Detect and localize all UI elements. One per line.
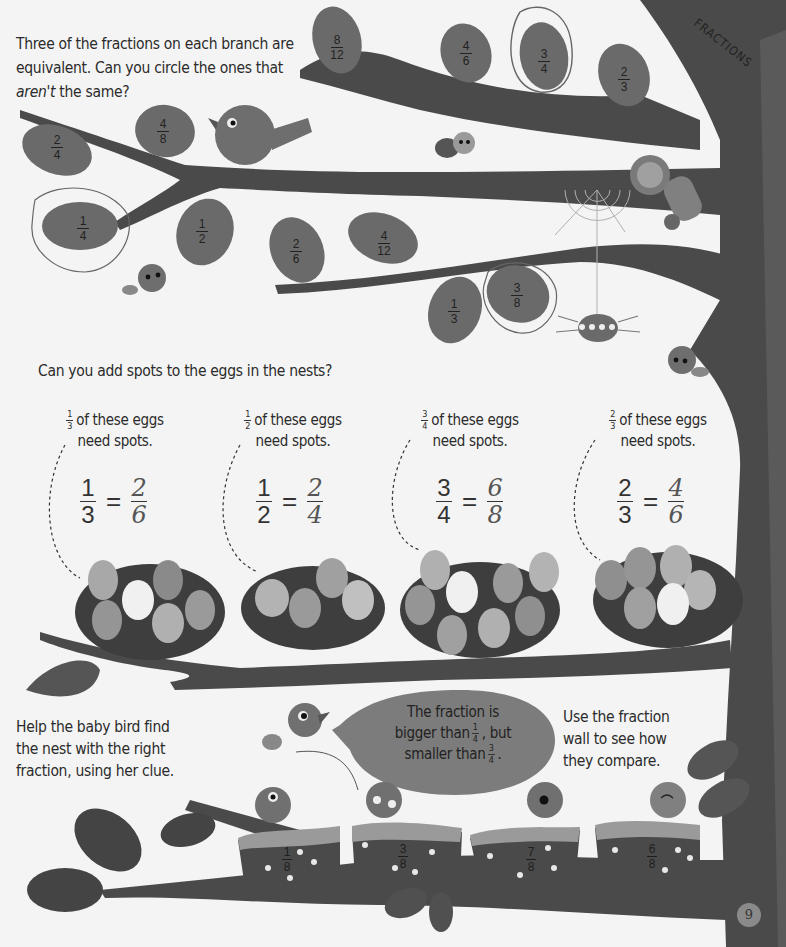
equation-4: 23 = 46 [617,476,684,527]
leaf [429,892,453,932]
bee-left [122,264,166,295]
bird-on-branch [208,105,312,165]
nest-4 [593,545,743,648]
page-number: 9 [737,903,761,927]
leaf-fraction[interactable]: 812 [325,34,349,61]
leaf-fraction-circled[interactable]: 14 [71,215,95,242]
butterfly [630,155,706,230]
leaf-fraction[interactable]: 48 [151,118,175,145]
leaf-fraction[interactable]: 46 [454,40,478,67]
answer-input[interactable]: 46 [668,476,684,527]
activity2-instruction: Can you add spots to the eggs in the nes… [38,362,332,380]
leaf-fraction-circled[interactable]: 34 [532,48,556,75]
leaf-fraction[interactable]: 24 [45,134,69,161]
chick-nest-fraction[interactable]: 18 [277,846,297,873]
leaf [27,868,103,912]
speech-bubble-text: The fraction is bigger than14, but small… [388,702,518,765]
leaf-fraction[interactable]: 26 [284,238,308,265]
spider [556,314,640,342]
chick-nest-fraction[interactable]: 68 [642,843,662,870]
nest-3 [400,550,560,658]
baby-bird-flying [262,703,330,750]
leaf [26,660,100,696]
leaf-fraction[interactable]: 412 [372,230,396,257]
equation-3: 34 = 68 [436,476,503,527]
instruction-emphasis: aren't [16,83,55,101]
leaf-fraction[interactable]: 23 [612,66,636,93]
answer-input[interactable]: 68 [487,476,503,527]
leaf-fraction[interactable]: 12 [190,218,214,245]
equation-1: 13 = 26 [80,476,147,527]
instruction-line: equivalent. Can you circle the ones that [16,56,316,80]
chick-nest-fraction[interactable]: 38 [393,843,413,870]
instruction-line: aren't the same? [16,80,316,104]
ladybird [435,132,475,158]
flight-path [296,751,358,790]
answer-input[interactable]: 26 [131,476,147,527]
instruction-rest: the same? [55,83,129,101]
nest-2 [241,558,385,650]
fraction-wall-hint: Use the fraction wall to see how they co… [563,706,693,772]
egg-clue-3: 34of these eggs need spots. [405,410,535,451]
nest-1 [75,560,225,660]
egg-clue-4: 23of these eggs need spots. [593,410,723,451]
equation-2: 12 = 24 [256,476,323,527]
activity1-instruction: Three of the fractions on each branch ar… [16,32,316,104]
egg-clue-1: 13of these eggs need spots. [50,410,180,451]
answer-input[interactable]: 24 [307,476,323,527]
activity3-instruction: Help the baby bird find the nest with th… [16,716,186,782]
leaf-fraction[interactable]: 13 [442,298,466,325]
egg-clue-2: 12of these eggs need spots. [228,410,358,451]
leaf-fraction-circled[interactable]: 38 [505,282,529,309]
chick-nest-fraction[interactable]: 78 [521,846,541,873]
instruction-line: Three of the fractions on each branch ar… [16,32,316,56]
